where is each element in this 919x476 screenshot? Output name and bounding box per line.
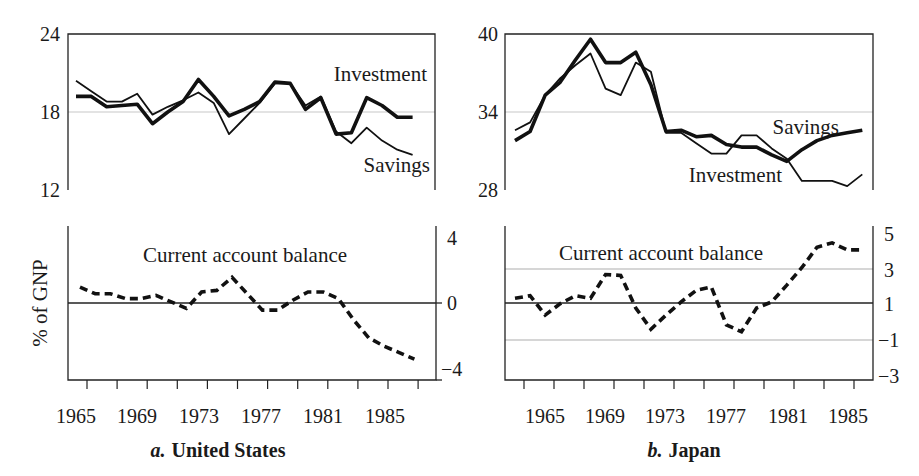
jp-top-ytick-40: 40: [478, 23, 498, 45]
us-xtick-1965: 1965: [56, 405, 96, 427]
us-bottom-ytick-0: 0: [447, 292, 457, 314]
jp-xtick-1969: 1969: [585, 405, 625, 427]
us-top-chart: 24 18 12 Investment Savings: [40, 23, 435, 201]
us-current-account-label: Current account balance: [143, 243, 347, 267]
jp-top-chart: 40 34 28 Savings Investment: [478, 23, 873, 201]
us-xtick-1973: 1973: [179, 405, 219, 427]
panel-b-title: Japan: [668, 439, 720, 462]
panel-a-letter: a.: [151, 439, 166, 461]
us-xtick-1985: 1985: [365, 405, 405, 427]
panel-a-caption: a.United States: [151, 439, 286, 461]
jp-bottom-chart: 5 3 1 −1 −3 Current account balance 1965…: [505, 223, 899, 427]
jp-xtick-1973: 1973: [645, 405, 685, 427]
jp-current-account-label: Current account balance: [559, 241, 763, 265]
panel-a-title: United States: [172, 439, 286, 461]
us-top-ytick-18: 18: [40, 101, 60, 123]
jp-savings-line: [515, 39, 862, 161]
jp-bottom-ytick-1: 1: [884, 293, 894, 315]
us-investment-label: Investment: [334, 62, 427, 86]
panel-b-caption: b.Japan: [647, 439, 720, 462]
us-investment-line: [76, 80, 413, 135]
figure: 24 18 12 Investment Savings 4 0 −4 Curre…: [0, 0, 919, 476]
us-xtick-1981: 1981: [303, 405, 343, 427]
us-x-axis-ticks: [87, 380, 418, 389]
us-savings-line: [76, 81, 413, 155]
us-savings-label: Savings: [363, 153, 430, 177]
us-bottom-ytick-4: 4: [447, 227, 457, 249]
us-bottom-chart: 4 0 −4 Current account balance 1965 1969…: [56, 226, 462, 427]
panel-japan: 40 34 28 Savings Investment 5 3 1 −1 −3 …: [478, 23, 899, 462]
jp-top-ytick-28: 28: [478, 179, 498, 201]
us-bottom-ytick-neg4: −4: [441, 358, 462, 380]
us-current-account-line: [80, 277, 414, 359]
us-top-ytick-12: 12: [40, 179, 60, 201]
jp-xtick-1981: 1981: [768, 405, 808, 427]
us-xtick-1977: 1977: [241, 405, 281, 427]
jp-xtick-1985: 1985: [828, 405, 868, 427]
jp-bottom-ytick-neg1: −1: [878, 329, 899, 351]
us-top-ytick-24: 24: [40, 23, 60, 45]
jp-savings-label: Savings: [772, 115, 839, 139]
jp-bottom-ytick-neg3: −3: [878, 365, 899, 387]
jp-xtick-1977: 1977: [706, 405, 746, 427]
panel-us: 24 18 12 Investment Savings 4 0 −4 Curre…: [28, 23, 462, 461]
jp-xtick-1965: 1965: [525, 405, 565, 427]
jp-bottom-ytick-5: 5: [884, 223, 894, 245]
panel-b-letter: b.: [647, 439, 662, 461]
jp-bottom-ytick-3: 3: [884, 259, 894, 281]
us-xtick-1969: 1969: [117, 405, 157, 427]
jp-investment-label: Investment: [689, 163, 782, 187]
y-axis-label: % of GNP: [28, 259, 52, 347]
jp-top-ytick-34: 34: [478, 101, 498, 123]
jp-x-axis-ticks: [524, 380, 854, 389]
